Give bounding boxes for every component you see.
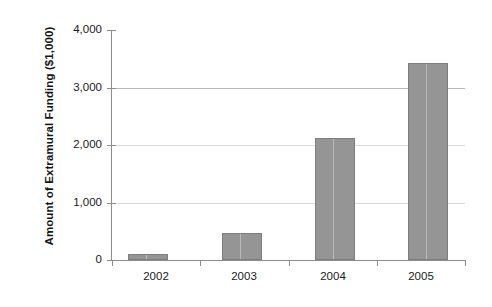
x-tick-start [112,260,113,266]
bar-chart: Amount of Extramural Funding ($1,000) 4,… [0,0,492,307]
x-tick-3 [377,260,378,266]
bar-seam [240,234,241,259]
bar-seam [146,255,147,259]
y-tick-1000 [107,203,116,204]
y-tick-4000 [107,30,116,31]
y-tick-label-3000: 3,000 [42,82,102,94]
y-tick-label-4000: 4,000 [42,24,102,36]
bar-2003 [222,233,262,260]
bar-2005 [408,63,448,260]
bar-seam [333,139,334,259]
bar-seam [426,64,427,259]
plot-area [112,30,465,260]
y-tick-label-0: 0 [42,254,102,266]
x-label-2004: 2004 [293,270,373,282]
y-tick-3000 [107,88,116,89]
y-tick-label-2000: 2,000 [42,139,102,151]
x-label-2002: 2002 [116,270,196,282]
x-label-2005: 2005 [381,270,461,282]
x-label-2003: 2003 [204,270,284,282]
x-tick-end [465,260,466,266]
y-axis-title: Amount of Extramural Funding ($1,000) [43,11,55,261]
x-tick-2 [289,260,290,266]
bar-2004 [315,138,355,260]
y-tick-label-1000: 1,000 [42,197,102,209]
x-tick-1 [200,260,201,266]
y-tick-2000 [107,145,116,146]
